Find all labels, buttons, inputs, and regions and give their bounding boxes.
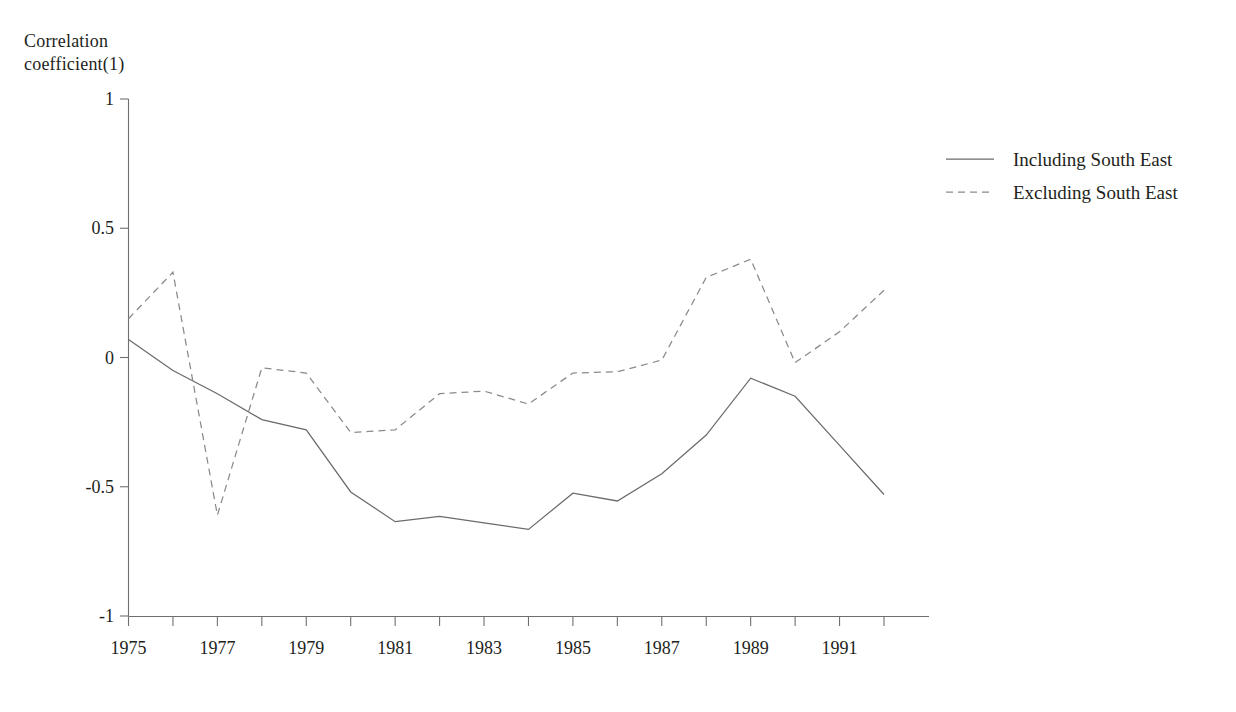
series-line-solid (129, 339, 885, 529)
x-tick-group: 197519771979198119831985198719891991 (111, 617, 885, 659)
y-tick-label: 0 (105, 348, 114, 368)
y-tick-label: 1 (105, 89, 114, 109)
legend-label: Including South East (1013, 149, 1173, 170)
x-tick-label: 1975 (111, 638, 147, 658)
y-tick-label: -0.5 (86, 477, 115, 497)
chart-legend: Including South EastExcluding South East (946, 149, 1178, 203)
y-axis: 10.50-0.5-1 (86, 89, 129, 626)
chart-figure: Correlation coefficient(1) 10.50-0.5-1 1… (0, 0, 1236, 712)
x-tick-label: 1985 (555, 638, 591, 658)
x-tick-label: 1983 (466, 638, 502, 658)
x-tick-label: 1981 (377, 638, 413, 658)
series-line-dashed (129, 259, 885, 515)
y-tick-label: 0.5 (92, 218, 115, 238)
x-tick-label: 1989 (733, 638, 769, 658)
x-tick-label: 1991 (822, 638, 858, 658)
legend-label: Excluding South East (1013, 182, 1178, 203)
y-tick-group: 10.50-0.5-1 (86, 89, 129, 626)
x-tick-label: 1977 (199, 638, 235, 658)
x-tick-label: 1979 (288, 638, 324, 658)
x-axis: 197519771979198119831985198719891991 (111, 617, 930, 659)
data-series-group (129, 259, 885, 529)
x-tick-label: 1987 (644, 638, 680, 658)
line-chart-plot: 10.50-0.5-1 1975197719791981198319851987… (0, 0, 1236, 712)
y-tick-label: -1 (99, 606, 114, 626)
